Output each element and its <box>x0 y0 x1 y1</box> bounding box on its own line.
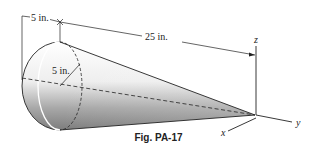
dimension-offset-label: 5 in. <box>31 13 49 23</box>
figure-caption: Fig. PA-17 <box>0 132 317 143</box>
y-axis-label: y <box>296 118 300 128</box>
x-axis <box>228 118 256 131</box>
y-axis <box>256 115 292 122</box>
z-axis-label: z <box>254 35 258 45</box>
dimension-radius-label: 5 in. <box>52 66 70 76</box>
dimension-length-label: 25 in. <box>145 32 168 42</box>
